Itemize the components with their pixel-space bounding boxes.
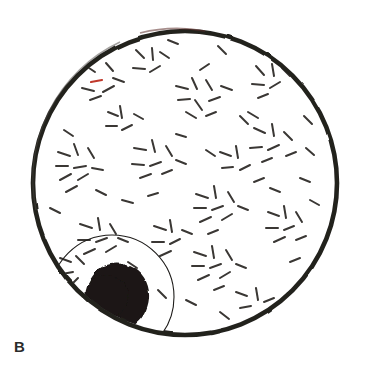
panel-label: B bbox=[14, 339, 25, 354]
figure-panel: B bbox=[0, 0, 365, 383]
micrograph-figure bbox=[0, 0, 365, 383]
dish-interior bbox=[35, 33, 335, 333]
